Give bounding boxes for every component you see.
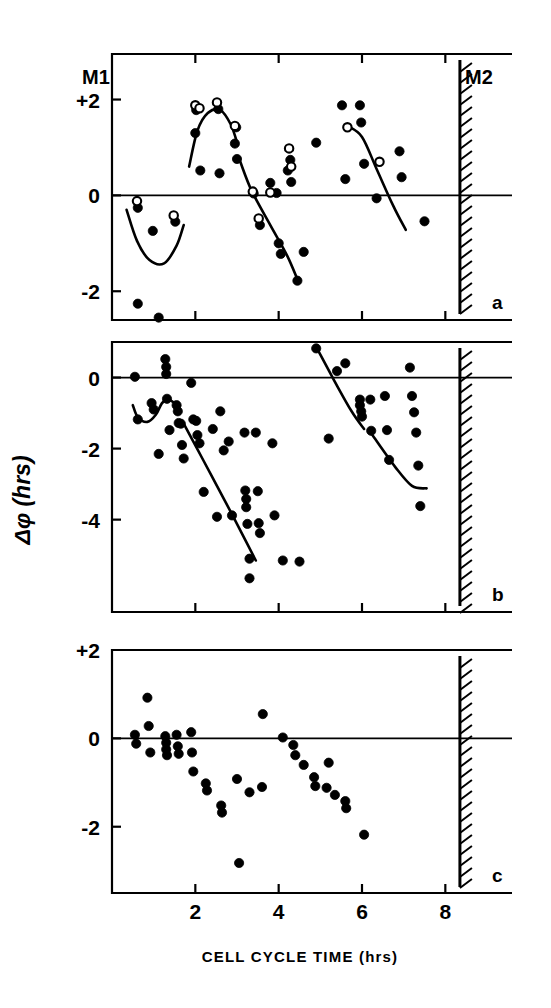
data-point-filled bbox=[310, 773, 319, 782]
data-point-open bbox=[255, 214, 263, 222]
panel-a-label: a bbox=[492, 292, 503, 313]
data-point-filled bbox=[412, 428, 421, 437]
x-tick-label: 4 bbox=[273, 900, 285, 923]
data-point-filled bbox=[312, 138, 321, 147]
data-point-filled bbox=[322, 783, 331, 792]
data-point-filled bbox=[154, 449, 163, 458]
data-point-filled bbox=[324, 434, 333, 443]
data-point-filled bbox=[192, 416, 201, 425]
data-point-filled bbox=[274, 239, 283, 248]
data-point-filled bbox=[187, 378, 196, 387]
data-point-filled bbox=[407, 391, 416, 400]
data-point-filled bbox=[235, 858, 244, 867]
data-point-filled bbox=[311, 782, 320, 791]
data-point-filled bbox=[219, 446, 228, 455]
data-point-filled bbox=[232, 154, 241, 163]
data-point-filled bbox=[242, 503, 251, 512]
data-point-filled bbox=[357, 412, 366, 421]
data-point-filled bbox=[243, 519, 252, 528]
y-tick-label: -2 bbox=[81, 438, 100, 461]
data-point-filled bbox=[276, 249, 285, 258]
data-point-filled bbox=[199, 487, 208, 496]
data-point-filled bbox=[278, 556, 287, 565]
data-point-filled bbox=[253, 487, 262, 496]
data-point-open bbox=[266, 188, 274, 196]
data-point-filled bbox=[258, 710, 267, 719]
data-point-filled bbox=[360, 159, 369, 168]
panel-b-label: b bbox=[492, 584, 504, 605]
data-point-filled bbox=[289, 740, 298, 749]
data-point-filled bbox=[245, 554, 254, 563]
data-point-filled bbox=[196, 166, 205, 175]
data-point-filled bbox=[154, 313, 163, 322]
data-point-filled bbox=[251, 428, 260, 437]
panel-c-label: c bbox=[492, 865, 503, 886]
data-point-filled bbox=[255, 529, 264, 538]
data-point-filled bbox=[416, 502, 425, 511]
data-point-filled bbox=[324, 758, 333, 767]
data-point-filled bbox=[187, 728, 196, 737]
data-point-filled bbox=[270, 511, 279, 520]
y-tick-label: +2 bbox=[76, 639, 100, 662]
data-point-filled bbox=[173, 407, 182, 416]
x-tick-label: 8 bbox=[439, 900, 451, 923]
x-tick-label: 6 bbox=[356, 900, 368, 923]
data-point-filled bbox=[148, 226, 157, 235]
data-point-filled bbox=[254, 519, 263, 528]
data-point-filled bbox=[143, 693, 152, 702]
data-point-open bbox=[133, 197, 141, 205]
data-point-filled bbox=[224, 437, 233, 446]
data-point-filled bbox=[385, 455, 394, 464]
data-point-open bbox=[343, 123, 351, 131]
data-point-filled bbox=[230, 139, 239, 148]
data-point-filled bbox=[130, 372, 139, 381]
data-point-filled bbox=[299, 247, 308, 256]
figure-container: Δφ (hrs) CELL CYCLE TIME (hrs) M1 M2 a b… bbox=[0, 0, 551, 1008]
data-point-filled bbox=[149, 405, 158, 414]
data-point-filled bbox=[187, 748, 196, 757]
y-tick-label: +2 bbox=[76, 89, 100, 112]
data-point-filled bbox=[217, 808, 226, 817]
y-tick-label: -2 bbox=[81, 816, 100, 839]
data-point-filled bbox=[395, 147, 404, 156]
data-point-filled bbox=[299, 760, 308, 769]
data-point-filled bbox=[420, 217, 429, 226]
data-point-filled bbox=[165, 426, 174, 435]
data-point-filled bbox=[133, 415, 142, 424]
data-point-filled bbox=[357, 118, 366, 127]
data-point-filled bbox=[191, 129, 200, 138]
data-point-filled bbox=[177, 440, 186, 449]
data-point-filled bbox=[162, 394, 171, 403]
y-axis-label: Δφ (hrs) bbox=[9, 455, 35, 545]
data-point-filled bbox=[382, 426, 391, 435]
data-point-filled bbox=[174, 749, 183, 758]
y-tick-label: -2 bbox=[81, 280, 100, 303]
data-point-filled bbox=[216, 407, 225, 416]
data-point-filled bbox=[410, 408, 419, 417]
x-tick-label: 2 bbox=[189, 900, 201, 923]
data-point-filled bbox=[195, 439, 204, 448]
data-point-open bbox=[195, 104, 203, 112]
data-point-filled bbox=[337, 101, 346, 110]
data-point-filled bbox=[172, 730, 181, 739]
data-point-filled bbox=[133, 299, 142, 308]
data-point-filled bbox=[372, 194, 381, 203]
m1-label: M1 bbox=[82, 66, 110, 88]
data-point-filled bbox=[342, 804, 351, 813]
data-point-filled bbox=[278, 733, 287, 742]
y-tick-label: 0 bbox=[88, 727, 100, 750]
data-point-filled bbox=[266, 178, 275, 187]
data-point-filled bbox=[380, 391, 389, 400]
data-point-filled bbox=[240, 428, 249, 437]
data-point-filled bbox=[176, 419, 185, 428]
data-point-filled bbox=[366, 395, 375, 404]
data-point-filled bbox=[162, 751, 171, 760]
data-point-filled bbox=[144, 721, 153, 730]
data-point-filled bbox=[287, 177, 296, 186]
data-point-filled bbox=[162, 369, 171, 378]
data-point-open bbox=[231, 122, 239, 130]
data-point-open bbox=[375, 158, 383, 166]
data-point-filled bbox=[146, 748, 155, 757]
data-point-filled bbox=[312, 344, 321, 353]
data-point-filled bbox=[215, 169, 224, 178]
